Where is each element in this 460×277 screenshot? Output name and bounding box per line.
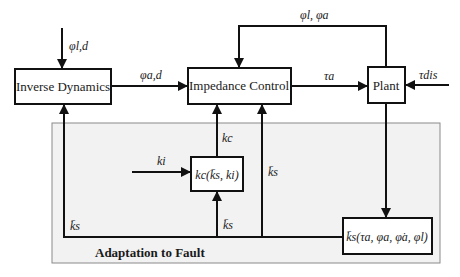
- kc-label: kc: [222, 131, 233, 145]
- feedback-label: φl, φa: [300, 8, 329, 22]
- control-block-diagram: Adaptation to Fault φl,d Inverse Dynamic…: [0, 0, 460, 277]
- ki-label: ki: [157, 154, 166, 168]
- phi-ad-label: φa,d: [140, 68, 163, 82]
- ks-estimator-label: k̄s(τa, φa, φ̇a, φl): [346, 230, 428, 244]
- tau-a-label: τa: [324, 69, 334, 83]
- feedback-loop-line: [239, 26, 386, 67]
- impedance-control-label: Impedance Control: [189, 78, 289, 93]
- ks-bar-mid-label: k̄s: [223, 218, 233, 232]
- kc-gain-label: kc(k̄s, ki): [195, 168, 238, 182]
- phi-ld-label: φl,d: [69, 39, 89, 53]
- ks-bar-right-label: k̄s: [268, 165, 278, 179]
- ks-bar-left-label: k̄s: [70, 219, 80, 233]
- tau-dis-label: τdis: [419, 68, 438, 82]
- plant-label: Plant: [373, 78, 400, 93]
- adaptation-panel-label: Adaptation to Fault: [95, 245, 205, 260]
- inverse-dynamics-label: Inverse Dynamics: [16, 79, 110, 94]
